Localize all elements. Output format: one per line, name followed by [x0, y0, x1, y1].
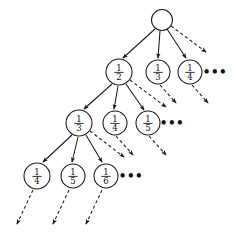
tree-edge-dashed — [53, 190, 69, 224]
tree-edge-solid — [167, 29, 186, 58]
tree-node-1-over-4[interactable]: 14 — [178, 60, 202, 84]
fraction-denominator: 4 — [34, 176, 39, 186]
fraction-denominator: 3 — [76, 123, 81, 133]
fraction-numerator: 1 — [112, 114, 117, 124]
fraction-denominator: 6 — [103, 176, 108, 186]
nodes-group: 121314131415141516 — [24, 10, 202, 190]
fraction-numerator: 1 — [187, 63, 192, 73]
tree-node-1-over-5[interactable]: 15 — [61, 164, 85, 188]
ellipsis-group: ••••••••• — [119, 65, 228, 183]
tree-edge-dashed — [192, 85, 208, 103]
tree-edge-dashed — [171, 26, 206, 52]
fraction-numerator: 1 — [70, 167, 75, 177]
tree-node-root[interactable] — [152, 10, 173, 31]
tree-edge-dashed — [149, 136, 166, 155]
tree-node-1-over-3[interactable]: 13 — [66, 110, 92, 136]
tree-edge-solid — [72, 137, 78, 162]
node-circle — [152, 10, 173, 31]
tree-edge-dashed — [17, 190, 33, 224]
top-margin-strip — [0, 0, 235, 7]
tree-edge-solid — [123, 29, 155, 58]
fraction-denominator: 5 — [70, 176, 75, 186]
fraction-denominator: 2 — [116, 72, 121, 82]
tree-node-1-over-4[interactable]: 14 — [103, 111, 127, 135]
fraction-numerator: 1 — [155, 63, 160, 73]
tree-node-1-over-6[interactable]: 16 — [94, 164, 118, 188]
fraction-numerator: 1 — [76, 114, 81, 124]
tree-edge-solid — [84, 84, 112, 109]
tree-edge-dashed — [116, 136, 133, 155]
tree-edge-solid — [114, 86, 118, 109]
fraction-numerator: 1 — [103, 167, 108, 177]
solid-edges-group — [43, 29, 186, 162]
tree-edge-solid — [86, 135, 102, 162]
ellipsis-label: ••• — [119, 169, 144, 183]
ellipsis-label: ••• — [160, 116, 185, 130]
fraction-denominator: 4 — [112, 123, 117, 133]
tree-node-1-over-3[interactable]: 13 — [146, 60, 170, 84]
tree-node-1-over-2[interactable]: 12 — [106, 59, 132, 85]
fraction-numerator: 1 — [145, 114, 150, 124]
tree-edge-dashed — [160, 85, 176, 103]
fraction-numerator: 1 — [116, 63, 121, 73]
tree-edge-dashed — [86, 190, 102, 224]
tree-node-1-over-5[interactable]: 15 — [136, 111, 160, 135]
tree-diagram-canvas: 121314131415141516 ••••••••• — [0, 0, 235, 238]
fraction-denominator: 5 — [145, 123, 150, 133]
fraction-numerator: 1 — [34, 167, 39, 177]
fraction-denominator: 3 — [155, 72, 160, 82]
tree-node-1-over-4[interactable]: 14 — [24, 163, 50, 189]
fraction-denominator: 4 — [187, 72, 192, 82]
ellipsis-label: ••• — [203, 65, 228, 79]
fraction-tree-figure: 121314131415141516 ••••••••• — [0, 0, 235, 238]
tree-edge-solid — [43, 135, 72, 162]
tree-edge-solid — [158, 31, 160, 58]
